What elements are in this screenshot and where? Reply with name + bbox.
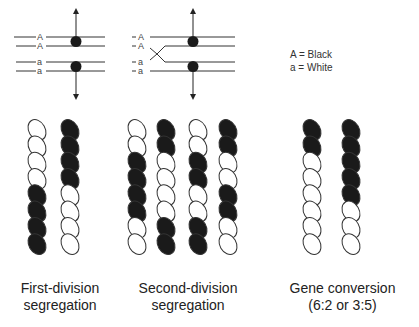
- spore-column: [185, 116, 210, 257]
- spore-column: [299, 116, 324, 257]
- ascus: [124, 116, 240, 257]
- caption-line: Second-division: [128, 280, 248, 297]
- spore-white: [338, 230, 363, 257]
- centromere-dot: [188, 36, 199, 47]
- ascus: [299, 116, 363, 257]
- spore-white: [57, 230, 82, 257]
- allele-label: A: [138, 41, 144, 51]
- ascus: [24, 116, 82, 257]
- crossover-chromatid: [150, 46, 235, 60]
- caption-gene-conversion: Gene conversion (6:2 or 3:5): [280, 280, 405, 314]
- allele-label: A: [37, 41, 43, 51]
- spore-column: [24, 116, 49, 257]
- spore-black: [24, 230, 49, 257]
- spore-black: [185, 230, 210, 257]
- spore-white: [124, 230, 149, 257]
- caption-second-division: Second-division segregation: [128, 280, 248, 314]
- first-division-chromosome-diagram: [14, 11, 105, 97]
- spore-column: [215, 116, 240, 257]
- legend-white: a = White: [290, 61, 333, 74]
- spore-column: [124, 116, 149, 257]
- legend-black: A = Black: [290, 48, 333, 61]
- caption-line: (6:2 or 3:5): [280, 297, 405, 314]
- crossover-chromatid: [150, 48, 235, 62]
- centromere-dot: [71, 36, 82, 47]
- spore-column: [338, 116, 363, 257]
- spore-column: [57, 116, 82, 257]
- spore-white: [215, 230, 240, 257]
- spore-black: [153, 230, 178, 257]
- second-division-chromosome-diagram: [132, 11, 235, 97]
- caption-line: First-division: [8, 280, 112, 297]
- asci-spores: [24, 116, 363, 257]
- spore-column: [153, 116, 178, 257]
- caption-line: segregation: [128, 297, 248, 314]
- caption-line: segregation: [8, 297, 112, 314]
- centromere-dot: [188, 61, 199, 72]
- allele-label: a: [37, 66, 42, 76]
- centromere-dot: [71, 61, 82, 72]
- caption-line: Gene conversion: [280, 280, 405, 297]
- allele-label: a: [138, 66, 143, 76]
- spore-white: [299, 230, 324, 257]
- caption-first-division: First-division segregation: [8, 280, 112, 314]
- diagram-canvas: [0, 0, 419, 327]
- legend: A = Black a = White: [290, 48, 333, 74]
